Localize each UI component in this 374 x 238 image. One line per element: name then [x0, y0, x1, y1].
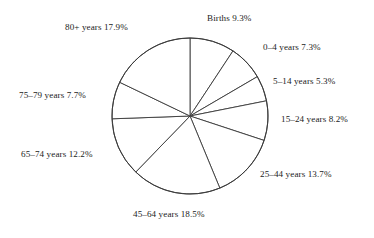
slice-label-45-64-years: 45–64 years 18.5% [133, 209, 205, 220]
slice-label-births: Births 9.3% [207, 13, 252, 24]
slice-label-0-4-years: 0–4 years 7.3% [263, 42, 321, 53]
pie-chart-figure: Births 9.3% 0–4 years 7.3% 5–14 years 5.… [0, 0, 374, 238]
slice-label-75-79-years: 75–79 years 7.7% [19, 90, 86, 101]
slice-label-15-24-years: 15–24 years 8.2% [281, 114, 348, 125]
slice-label-5-14-years: 5–14 years 5.3% [273, 76, 335, 87]
slice-label-25-44-years: 25–44 years 13.7% [260, 169, 332, 180]
slice-label-80-plus-years: 80+ years 17.9% [65, 22, 128, 33]
pie-slices [112, 38, 268, 194]
slice-label-65-74-years: 65–74 years 12.2% [21, 149, 93, 160]
